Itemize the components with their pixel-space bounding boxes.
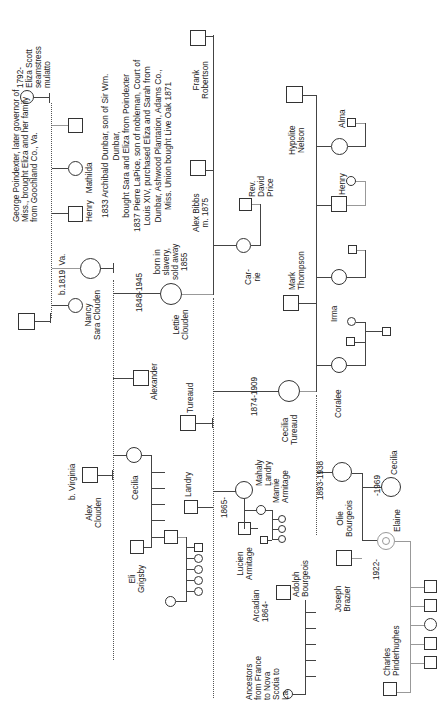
frank-robertson-symbol: [190, 30, 206, 46]
nancy-symbol: [68, 298, 83, 313]
grandchild-symbol: [194, 587, 203, 596]
rev-david-price-symbol: [239, 198, 252, 211]
lettie-label: Lettie Clouden: [172, 310, 190, 341]
landry-symbol: [184, 500, 198, 514]
irma-label: Irma: [330, 306, 339, 322]
alex-clouden-symbol: [82, 467, 98, 483]
grandchild-symbol: [194, 565, 203, 574]
charles-pinderhughes-symbol: [383, 682, 397, 696]
armitage-child-symbol: [278, 525, 286, 533]
coralee-child-symbol: [346, 337, 355, 346]
ancestors-note: Ancestors from France to Nova Scotia to …: [245, 656, 290, 700]
henry-symbol: [68, 206, 83, 222]
y1922-label: 1922-: [372, 559, 381, 580]
cecilia-bourgeois-symbol: [381, 477, 401, 497]
tureaud-symbol: [180, 415, 196, 431]
pinderhughes-child-symbol: [424, 656, 437, 669]
tureaud-label: Tureaud: [186, 383, 195, 413]
joseph-brazier-label: Joseph Brazier: [334, 586, 352, 612]
olie-bourgeois-symbol: [332, 462, 352, 482]
family-tree-diagram: 1792- Eliza Scott seamstress mulatto Hen…: [0, 0, 442, 702]
dotted-line: [113, 280, 114, 660]
elaine-label: Elaine: [393, 509, 402, 532]
joseph-brazier-symbol: [336, 550, 352, 566]
frank-robertson-label: Frank Robertson: [192, 61, 210, 99]
lettie-clouden-symbol: [160, 283, 182, 305]
cecilia-tureaud-dates: 1874-1909: [250, 377, 259, 416]
arcadian-label: Arcadian 1864-: [252, 590, 270, 622]
alexander-label: Alexander: [150, 363, 159, 400]
mathilda-symbol: [68, 161, 83, 176]
eli-grigsby-symbol: [130, 540, 144, 554]
lettie-dates: 1848-1945: [135, 273, 144, 312]
coralee-grandchild-symbol: [382, 327, 391, 336]
adolph-bourgeois-symbol: [276, 585, 291, 600]
landry-label: Landry: [184, 472, 193, 497]
dunbar-note: 1833 Archibald Dunbar, son of Sir Wm. Du…: [100, 60, 174, 232]
grandchild-symbol: [194, 554, 203, 563]
lettie-note: born in slavery, sold away 1855: [153, 244, 189, 280]
mamie-armitage-symbol: [256, 505, 266, 515]
lucien-armitage-label: Lucien Armitage: [236, 547, 254, 580]
carrie-label: Car- rie: [244, 269, 262, 285]
alex-bibbs-symbol: [190, 160, 206, 176]
alex-bibbs-label: Alex Bibbs m. 1875: [192, 193, 210, 232]
pinderhughes-child-symbol: [424, 599, 437, 612]
eliza-scott-label: 1792- Eliza Scott seamstress mulatto: [16, 46, 52, 88]
cecilia-tureaud-label: Cecilia Tureaud: [281, 415, 299, 445]
pinderhughes-child-symbol: [424, 618, 437, 631]
alma-parent-symbol: [331, 138, 348, 155]
cecilia-tureaud-symbol: [278, 380, 300, 402]
mamie-armitage-label: Mamie Armitage: [272, 470, 290, 503]
thompson-grandchild-symbol: [348, 245, 357, 254]
mahaly-landry-symbol: [235, 481, 253, 499]
male-child-symbol: [68, 118, 83, 133]
y1865-label: 1865-: [220, 497, 229, 518]
grandchild-symbol: [194, 543, 203, 552]
olie-dates: 1893-1938: [316, 461, 325, 500]
armitage-child-spouse-symbol: [260, 536, 268, 544]
henry-mathilda-label: Henry Mathilda: [85, 162, 94, 222]
mark-thompson-label: Mark Thompson: [288, 251, 306, 290]
armitage-child-symbol: [278, 515, 286, 523]
henry-spouse-symbol: [346, 176, 356, 186]
alma-symbol: [347, 118, 356, 127]
cecilia2-label: Cecilia: [390, 450, 399, 475]
pinderhughes-child-symbol: [424, 580, 437, 593]
rev-david-price-label: Rev. David Price: [248, 176, 275, 197]
alma-label: Alma: [338, 109, 347, 128]
grandchild-spouse-symbol: [165, 596, 176, 607]
hypolite-nelson-label: Hypolite Nelson: [288, 125, 306, 155]
b1819-label: b.1819 Va.: [58, 254, 67, 295]
poindexter-note: George Poindexter, later governor of Mis…: [12, 90, 39, 222]
coralee-label: Coralee: [334, 389, 343, 418]
charles-pinderhughes-label: Charles Pinderhughes: [383, 625, 401, 676]
henry-label: Henry: [338, 173, 347, 195]
mahaly-landry-label: Mahaly Landry: [255, 460, 273, 486]
grandchild-symbol: [194, 576, 203, 585]
coralee-symbol: [331, 357, 347, 373]
thompson-child-symbol: [331, 269, 347, 285]
poindexter-symbol: [18, 313, 35, 330]
mark-thompson-symbol: [283, 295, 299, 311]
sara-clouden-symbol: [80, 258, 101, 279]
landry-child-symbol: [164, 530, 178, 544]
cecilia-label: Cecilia: [131, 475, 140, 500]
alexander-symbol: [133, 370, 149, 386]
b-virginia-label: b. Virginia: [68, 464, 77, 500]
carrie-symbol: [236, 238, 251, 253]
irma-symbol: [347, 317, 356, 326]
henry-nelson-symbol: [331, 196, 347, 212]
hypolite-nelson-symbol: [286, 86, 303, 103]
olie-bourgeois-label: Olie Bourgeois: [336, 500, 354, 537]
eli-grigsby-label: Eli Grigsby: [128, 565, 146, 593]
armitage-child-symbol: [278, 535, 286, 543]
alex-clouden-label: Alex Clouden: [85, 498, 103, 529]
adolph-bourgeois-label: Adolph Bourgeois: [292, 560, 310, 597]
dotted-line: [213, 298, 214, 698]
cecilia-symbol: [126, 447, 142, 463]
nancy-sara-label: Nancy Sara Clouden: [84, 290, 102, 340]
dotted-line: [51, 103, 52, 318]
elaine-inner-ring: [382, 537, 390, 545]
pinderhughes-child-symbol: [424, 637, 437, 650]
